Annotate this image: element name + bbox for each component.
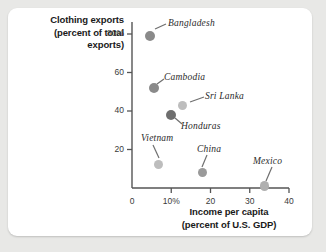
point-leader-line	[190, 97, 204, 102]
data-point-cambodia[interactable]	[149, 83, 159, 93]
y-axis-tick-label: 20	[84, 144, 124, 154]
x-axis-tick-label: 20	[191, 196, 231, 206]
data-point-label: Honduras	[181, 121, 221, 131]
point-leader-line	[266, 167, 272, 181]
data-point-label: Sri Lanka	[205, 91, 244, 101]
y-axis-tick-label: 60	[84, 67, 124, 77]
y-axis-tick-label: 40	[84, 105, 124, 115]
point-leader-line	[202, 155, 207, 167]
data-point-label: Cambodia	[164, 72, 205, 82]
point-leader-line	[153, 145, 159, 158]
data-point-label: Mexico	[253, 156, 282, 166]
y-axis-tick-label: 80%	[84, 28, 124, 38]
x-axis-tick-label: 40	[269, 196, 309, 206]
scatter-plot	[0, 0, 326, 252]
data-point-label: Bangladesh	[168, 18, 215, 28]
x-axis-tick-label: 30	[230, 196, 270, 206]
data-point-label: China	[197, 144, 221, 154]
data-point-bangladesh[interactable]	[145, 31, 155, 41]
x-axis-tick-label: 0	[112, 196, 152, 206]
x-axis-tick-label: 10%	[151, 196, 191, 206]
data-point-sri-lanka[interactable]	[178, 101, 187, 110]
point-leader-line	[155, 24, 166, 29]
point-leader-line	[157, 79, 164, 84]
data-point-label: Vietnam	[141, 133, 173, 143]
